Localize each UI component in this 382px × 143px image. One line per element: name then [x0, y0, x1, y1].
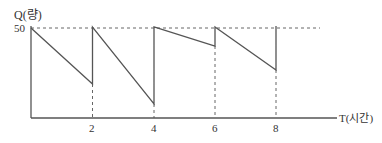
x-axis-label: T(시간) — [339, 112, 373, 125]
y-tick-50: 50 — [14, 22, 26, 34]
x-tick-4: 4 — [151, 122, 157, 134]
drop-guides — [93, 46, 277, 118]
x-tick-8: 8 — [273, 122, 279, 134]
y-axis-label: Q(량) — [14, 8, 42, 22]
quantity-series-line — [31, 26, 276, 104]
sawtooth-chart: Q(량) 50 2 4 6 8 T(시간) — [0, 0, 382, 143]
x-tick-6: 6 — [212, 122, 218, 134]
x-tick-2: 2 — [89, 122, 95, 134]
